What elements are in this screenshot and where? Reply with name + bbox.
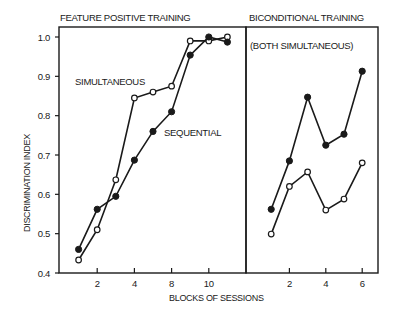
x-tick-label: 4	[323, 278, 328, 289]
data-point-open	[150, 89, 156, 95]
discrimination-index-chart: FEATURE POSITIVE TRAINING BICONDITIONAL …	[0, 0, 400, 322]
y-axis-title: DISCRIMINATION INDEX	[22, 134, 32, 232]
x-axis-title: BLOCKS OF SESSIONS	[169, 293, 264, 303]
data-point-filled	[131, 157, 137, 163]
data-point-filled	[305, 94, 311, 100]
right-panel-title: BICONDITIONAL TRAINING	[249, 12, 364, 23]
y-tick-label: 0.5	[38, 228, 50, 239]
x-tick-label: 10	[204, 278, 214, 289]
series-label-sequential: SEQUENTIAL	[164, 127, 221, 138]
data-point-filled	[359, 68, 365, 74]
data-point-open	[76, 257, 82, 263]
data-point-open	[287, 184, 293, 190]
data-point-filled	[341, 131, 347, 137]
data-point-open	[268, 231, 274, 237]
data-point-open	[113, 177, 119, 183]
data-point-filled	[113, 193, 119, 199]
data-point-open	[169, 83, 175, 89]
right-panel-frame	[246, 27, 378, 273]
data-point-open	[187, 38, 193, 44]
data-point-filled	[94, 206, 100, 212]
data-point-filled	[206, 34, 212, 40]
y-tick-label: 0.9	[38, 71, 50, 82]
data-point-open	[341, 196, 347, 202]
x-tick-label: 4	[132, 278, 137, 289]
data-point-filled	[323, 142, 329, 148]
data-point-open	[323, 207, 329, 213]
data-point-filled	[224, 39, 230, 45]
x-tick-label: 2	[287, 278, 292, 289]
data-point-open	[132, 95, 138, 101]
data-point-filled	[286, 158, 292, 164]
data-point-filled	[76, 246, 82, 252]
series-label-simultaneous: SIMULTANEOUS	[75, 76, 145, 87]
data-point-filled	[187, 52, 193, 58]
x-tick-label: 8	[169, 278, 174, 289]
data-point-open	[359, 160, 365, 166]
data-point-open	[94, 227, 100, 233]
series-line-open-panel-1	[79, 37, 228, 260]
data-point-filled	[268, 206, 274, 212]
data-point-filled	[150, 128, 156, 134]
y-tick-label: 0.4	[38, 268, 50, 279]
right-panel-subtitle: (BOTH SIMULTANEOUS)	[250, 40, 353, 51]
left-panel-title: FEATURE POSITIVE TRAINING	[60, 12, 190, 23]
y-tick-label: 0.7	[38, 150, 50, 161]
x-tick-label: 6	[360, 278, 365, 289]
x-tick-label: 2	[95, 278, 100, 289]
left-panel-frame	[59, 27, 246, 273]
y-tick-label: 0.8	[38, 110, 50, 121]
data-point-filled	[169, 109, 175, 115]
y-tick-label: 1.0	[38, 32, 50, 43]
data-point-open	[305, 169, 311, 175]
y-tick-label: 0.6	[38, 189, 50, 200]
